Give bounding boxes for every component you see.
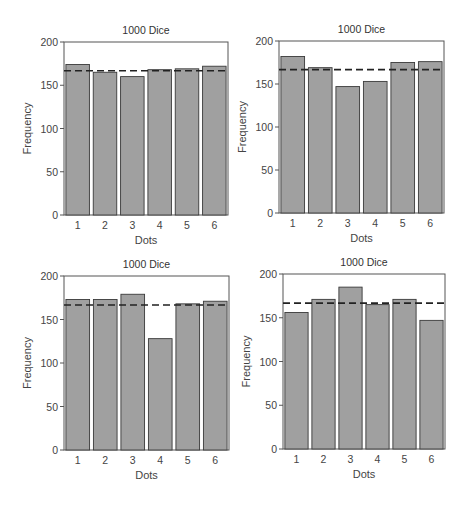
bar-3 [339,287,362,449]
chart-title: 1000 Dice [338,23,385,35]
bar-1 [66,299,90,450]
y-tick-label: 50 [261,164,273,176]
y-tick-label: 150 [40,314,58,326]
bar-6 [203,301,227,450]
bar-4 [363,81,387,213]
x-tick-label: 3 [129,219,135,231]
y-tick-label: 200 [40,36,58,48]
x-tick-label: 2 [102,454,108,466]
x-tick-label: 4 [157,219,163,231]
y-tick-label: 100 [259,356,277,368]
dice-histogram-2: 1000 Dice123456050100150200DotsFrequency [234,0,469,250]
x-tick-label: 1 [290,217,296,229]
dice-histogram-3: 1000 Dice123456050100150200DotsFrequency [0,250,235,500]
y-axis-label: Frequency [21,102,33,154]
x-tick-label: 4 [372,217,378,229]
y-tick-label: 0 [52,209,58,221]
bar-5 [176,304,200,450]
bar-6 [203,66,227,215]
y-tick-label: 0 [271,443,277,455]
x-tick-label: 3 [348,453,354,465]
x-tick-label: 3 [345,217,351,229]
bar-2 [308,68,332,213]
bar-5 [391,63,415,214]
chart-title: 1000 Dice [122,24,169,36]
bar-1 [66,64,90,215]
chart-title: 1000 Dice [123,258,170,270]
y-tick-label: 150 [40,79,58,91]
x-tick-label: 6 [212,454,218,466]
x-tick-label: 2 [102,219,108,231]
bar-4 [148,339,172,450]
y-tick-label: 100 [40,357,58,369]
bar-3 [121,294,145,450]
y-tick-label: 50 [265,399,277,411]
chart-title: 1000 Dice [340,256,387,268]
y-tick-label: 200 [255,35,273,47]
y-axis-label: Frequency [240,335,252,387]
x-tick-label: 4 [157,454,163,466]
x-tick-label: 1 [75,219,81,231]
x-tick-label: 1 [294,453,300,465]
x-tick-label: 3 [130,454,136,466]
bar-2 [93,299,117,450]
bar-6 [418,62,442,213]
x-tick-label: 5 [184,219,190,231]
y-tick-label: 150 [255,78,273,90]
y-tick-label: 100 [255,121,273,133]
x-tick-label: 5 [402,453,408,465]
x-tick-label: 4 [375,453,381,465]
bar-5 [393,299,416,449]
y-tick-label: 150 [259,312,277,324]
dice-histogram-4: 1000 Dice123456050100150200DotsFrequency [234,250,469,500]
x-tick-label: 2 [317,217,323,229]
x-axis-label: Dots [350,232,373,244]
bar-2 [93,72,117,215]
bar-4 [148,70,172,215]
x-tick-label: 5 [185,454,191,466]
dice-histogram-1: 1000 Dice123456050100150200DotsFrequency [0,0,235,250]
x-axis-label: Dots [135,469,158,481]
bar-2 [312,299,335,449]
x-tick-label: 6 [429,453,435,465]
y-axis-label: Frequency [236,101,248,153]
bar-4 [366,305,389,449]
x-tick-label: 5 [400,217,406,229]
x-tick-label: 6 [427,217,433,229]
bar-5 [175,69,199,215]
x-tick-label: 2 [321,453,327,465]
bar-3 [336,87,360,213]
y-tick-label: 0 [52,444,58,456]
y-axis-label: Frequency [21,337,33,389]
bar-1 [281,56,305,213]
x-axis-label: Dots [353,468,376,480]
y-tick-label: 50 [46,401,58,413]
bar-3 [121,77,145,215]
x-axis-label: Dots [135,234,158,246]
y-tick-label: 200 [40,270,58,282]
y-tick-label: 0 [267,207,273,219]
y-tick-label: 50 [46,166,58,178]
y-tick-label: 200 [259,268,277,280]
x-tick-label: 6 [211,219,217,231]
y-tick-label: 100 [40,123,58,135]
bar-1 [285,313,308,450]
bar-6 [420,320,443,449]
x-tick-label: 1 [75,454,81,466]
